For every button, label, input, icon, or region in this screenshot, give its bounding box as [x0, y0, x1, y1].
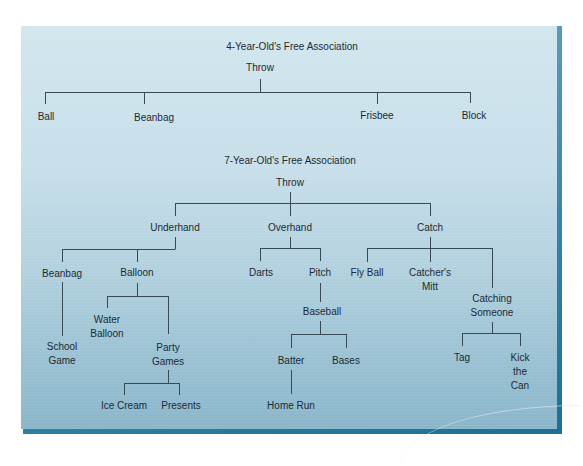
- node-catchers-mitt-line1: Catcher's: [409, 266, 451, 280]
- node-ice-cream: Ice Cream: [101, 399, 147, 413]
- node-throw-4yo: Throw: [246, 61, 274, 75]
- node-baseball: Baseball: [303, 305, 341, 319]
- diagram-title-4yo: 4-Year-Old's Free Association: [226, 40, 358, 54]
- node-beanbag-7yo: Beanbag: [42, 267, 82, 281]
- node-frisbee: Frisbee: [360, 109, 393, 123]
- node-school-game-line1: School: [47, 340, 78, 354]
- node-beanbag-4yo: Beanbag: [134, 111, 174, 125]
- node-ball: Ball: [38, 110, 55, 124]
- node-catching-someone-line1: Catching: [471, 292, 514, 306]
- node-presents: Presents: [161, 399, 200, 413]
- node-catch: Catch: [417, 221, 443, 235]
- diagram-title-7yo: 7-Year-Old's Free Association: [224, 154, 356, 168]
- node-fly-ball: Fly Ball: [351, 266, 384, 280]
- node-darts: Darts: [249, 266, 273, 280]
- node-kick-the-can-line1: Kick: [511, 351, 530, 365]
- node-catchers-mitt-line2: Mitt: [409, 280, 451, 294]
- node-throw-7yo: Throw: [276, 176, 304, 190]
- node-underhand: Underhand: [150, 221, 199, 235]
- node-water-balloon-line2: Balloon: [90, 327, 123, 341]
- node-kick-the-can: Kick the Can: [511, 351, 530, 393]
- node-school-game: School Game: [47, 340, 78, 368]
- node-catching-someone: Catching Someone: [471, 292, 514, 320]
- node-water-balloon-line1: Water: [90, 313, 123, 327]
- node-party-games: Party Games: [152, 341, 184, 369]
- node-bases: Bases: [332, 354, 360, 368]
- node-balloon: Balloon: [120, 266, 153, 280]
- node-school-game-line2: Game: [47, 354, 78, 368]
- node-tag: Tag: [454, 351, 470, 365]
- node-batter: Batter: [278, 354, 305, 368]
- node-kick-the-can-line2: the: [511, 365, 530, 379]
- node-kick-the-can-line3: Can: [511, 379, 530, 393]
- node-block: Block: [462, 109, 486, 123]
- node-overhand: Overhand: [268, 221, 312, 235]
- node-catchers-mitt: Catcher's Mitt: [409, 266, 451, 294]
- node-party-games-line1: Party: [152, 341, 184, 355]
- node-home-run: Home Run: [267, 399, 315, 413]
- node-catching-someone-line2: Someone: [471, 306, 514, 320]
- node-party-games-line2: Games: [152, 355, 184, 369]
- node-pitch: Pitch: [309, 266, 331, 280]
- node-water-balloon: Water Balloon: [90, 313, 123, 341]
